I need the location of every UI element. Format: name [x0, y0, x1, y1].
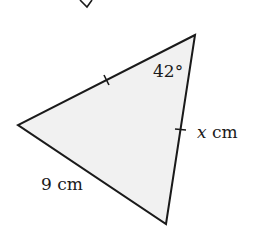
unit-cm: cm [207, 122, 238, 142]
equal-side-tick-right [175, 129, 186, 130]
partial-shape-top [80, 0, 92, 7]
side-label-9cm: 9 cm [41, 176, 83, 193]
diagram-canvas: 42° x cm 9 cm [0, 0, 256, 232]
variable-x: x [197, 122, 207, 142]
triangle-figure [0, 0, 256, 232]
side-label-x: x cm [197, 124, 238, 141]
angle-label: 42° [153, 63, 183, 80]
